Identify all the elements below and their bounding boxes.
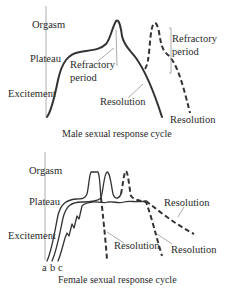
male-refractory-1-text-1: Refractory [70, 59, 116, 70]
male-refractory-1-text-2: period [70, 72, 98, 83]
female-curve-a [47, 172, 101, 261]
male-refractory-2-bracket [169, 28, 171, 73]
female-curve-label-c: c [58, 262, 63, 273]
male-chart: Orgasm Plateau Excitement Refractory per… [8, 6, 218, 139]
female-curve-a-resolution [101, 198, 107, 259]
sexual-response-cycle-diagram: Orgasm Plateau Excitement Refractory per… [0, 0, 228, 289]
male-resolution-1-text: Resolution [100, 96, 146, 107]
female-caption: Female sexual response cycle [58, 274, 177, 285]
female-label-orgasm: Orgasm [29, 165, 62, 176]
female-chart: Orgasm Plateau Excitement a b c Resoluti… [8, 152, 217, 285]
female-resolution-1-text: Resolution [114, 240, 160, 251]
male-refractory-2-text-2: period [172, 46, 200, 57]
female-label-plateau: Plateau [29, 196, 61, 207]
male-label-excitement: Excitement [8, 88, 56, 99]
male-refractory-2-text-1: Refractory [172, 33, 218, 44]
female-curve-label-a: a [42, 262, 47, 273]
female-label-excitement: Excitement [8, 230, 56, 241]
female-resolution-2-text: Resolution [171, 244, 217, 255]
male-refractory-1-marker [116, 30, 117, 66]
female-resolution-3-leader [178, 207, 184, 217]
male-resolution-2-text: Resolution [170, 114, 216, 125]
male-label-orgasm: Orgasm [32, 19, 65, 30]
male-label-plateau: Plateau [30, 53, 62, 64]
female-curve-label-b: b [50, 262, 55, 273]
female-resolution-3-text: Resolution [164, 197, 210, 208]
male-caption: Male sexual response cycle [62, 128, 172, 139]
